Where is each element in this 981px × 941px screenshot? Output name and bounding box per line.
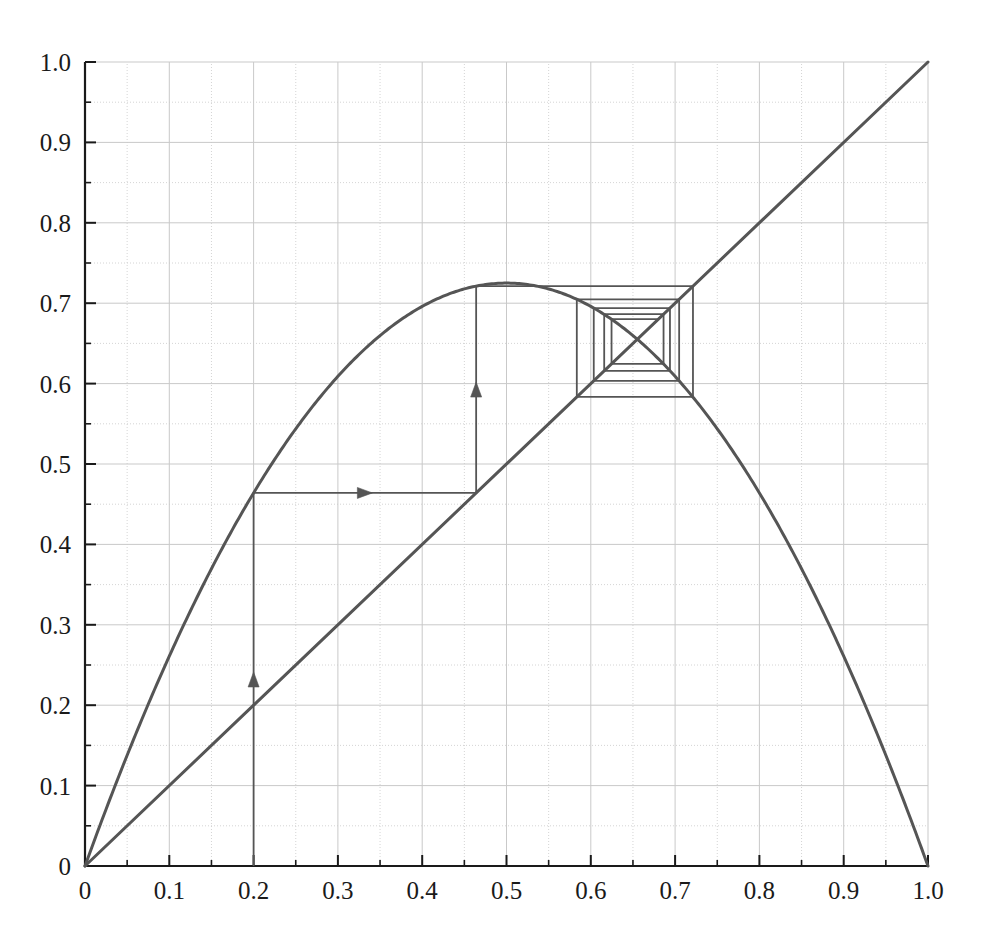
y-tick-label: 0.2 (40, 692, 71, 719)
y-tick-label: 0.8 (40, 210, 71, 237)
cobweb-path (254, 286, 693, 866)
cobweb-arrowhead-up (471, 382, 482, 397)
y-tick-label: 0.9 (40, 129, 71, 156)
figure-canvas: 00.10.20.30.40.50.60.70.80.91.000.10.20.… (0, 0, 981, 941)
x-tick-label: 0.5 (491, 877, 522, 904)
x-tick-label: 0.9 (828, 877, 859, 904)
y-tick-label: 0.7 (40, 290, 71, 317)
x-tick-label: 0.2 (238, 877, 269, 904)
x-tick-label: 0.8 (744, 877, 775, 904)
x-tick-label: 0.4 (407, 877, 439, 904)
y-tick-label: 0.3 (40, 612, 71, 639)
y-tick-label: 0.4 (40, 531, 72, 558)
x-tick-label: 0.6 (575, 877, 606, 904)
y-tick-label: 1.0 (40, 49, 71, 76)
x-tick-label: 0.7 (659, 877, 690, 904)
y-tick-label: 0.6 (40, 371, 71, 398)
x-tick-label: 1.0 (912, 877, 943, 904)
x-tick-label: 0 (79, 877, 92, 904)
y-tick-label: 0.5 (40, 451, 71, 478)
x-tick-label: 0.1 (154, 877, 185, 904)
x-tick-label: 0.3 (322, 877, 353, 904)
cobweb-arrowhead-up (248, 672, 259, 687)
direction-arrows (248, 382, 482, 687)
cobweb-plot: 00.10.20.30.40.50.60.70.80.91.000.10.20.… (0, 0, 981, 941)
y-tick-label: 0.1 (40, 773, 71, 800)
cobweb-orbit (254, 286, 693, 866)
y-tick-label: 0 (59, 853, 72, 880)
cobweb-arrowhead-right (357, 487, 372, 498)
